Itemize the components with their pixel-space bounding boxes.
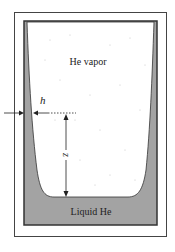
film-thickness-label: h — [40, 94, 46, 106]
helium-film-diagram: He vapor Liquid He h z — [0, 0, 175, 252]
vapor-label: He vapor — [70, 56, 108, 67]
liquid-label: Liquid He — [71, 206, 112, 217]
vapor-region — [27, 22, 154, 197]
height-label: z — [61, 152, 72, 157]
